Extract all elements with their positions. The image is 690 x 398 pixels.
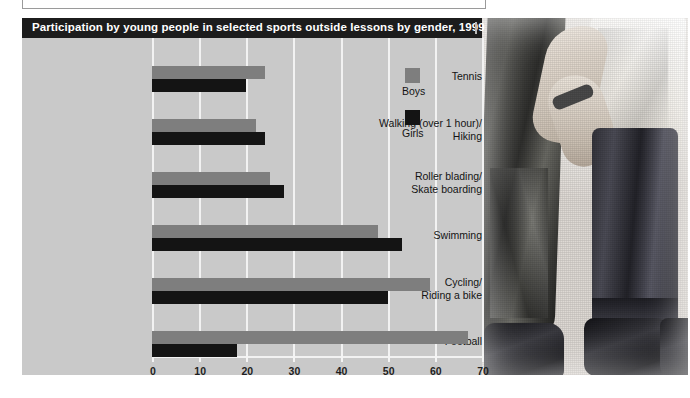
category-label: Roller blading/ Skate boarding [364,170,482,195]
category-label: Tennis [364,70,482,83]
bar-group: Football [22,329,482,369]
bar-girls [152,132,265,145]
bar-boys [152,225,378,238]
bar-girls [152,291,388,304]
legend-swatch-girls [405,110,420,125]
bar-boys [152,172,270,185]
chart-title-bar: Participation by young people in selecte… [22,18,482,38]
bar-girls [152,238,402,251]
chart-panel: Participation by young people in selecte… [22,18,482,375]
bar-group: Cycling/ Riding a bike [22,276,482,316]
plot-area: 010203040506070 TennisWalking (over 1 ho… [22,38,482,375]
bar-boys [152,66,265,79]
gridline [482,38,484,356]
top-divider-box [22,0,486,9]
x-tick-mark [482,354,484,362]
bar-boys [152,331,468,344]
photo-young-people [480,18,688,375]
bar-girls [152,79,246,92]
bar-boys [152,119,256,132]
legend-swatch-boys [405,68,420,83]
bar-girls [152,344,237,357]
bar-group: Swimming [22,223,482,263]
chart-title: Participation by young people in selecte… [32,21,485,33]
bar-group: Roller blading/ Skate boarding [22,170,482,210]
bar-girls [152,185,284,198]
bar-boys [152,278,430,291]
title-end-marker [475,22,477,34]
legend-label-girls: Girls [402,127,424,139]
legend-label-boys: Boys [402,85,425,97]
photo-vignette [480,18,688,375]
